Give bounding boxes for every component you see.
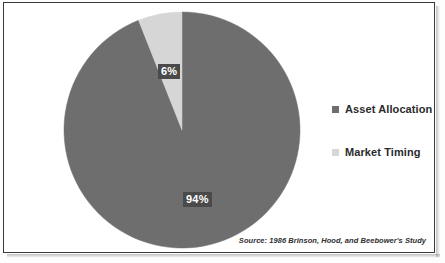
pie-label-market-timing: 6% <box>158 64 180 79</box>
legend-label: Market Timing <box>345 146 421 158</box>
legend-item-asset-allocation[interactable]: Asset Allocation <box>332 102 444 116</box>
plot-area: 6% 94% Asset Allocation Market Timing So… <box>8 6 438 255</box>
source-note: Source: 1986 Brinson, Hood, and Beebower… <box>239 236 426 245</box>
chart-legend: Asset Allocation Market Timing <box>332 102 444 188</box>
pie-chart-figure: 6% 94% Asset Allocation Market Timing So… <box>0 0 445 263</box>
pie-label-asset-allocation: 94% <box>183 192 212 207</box>
figure-frame: 6% 94% Asset Allocation Market Timing So… <box>3 2 435 253</box>
legend-swatch-icon <box>332 149 339 156</box>
legend-swatch-icon <box>332 106 339 113</box>
legend-item-market-timing[interactable]: Market Timing <box>332 145 444 159</box>
legend-label: Asset Allocation <box>345 103 432 115</box>
